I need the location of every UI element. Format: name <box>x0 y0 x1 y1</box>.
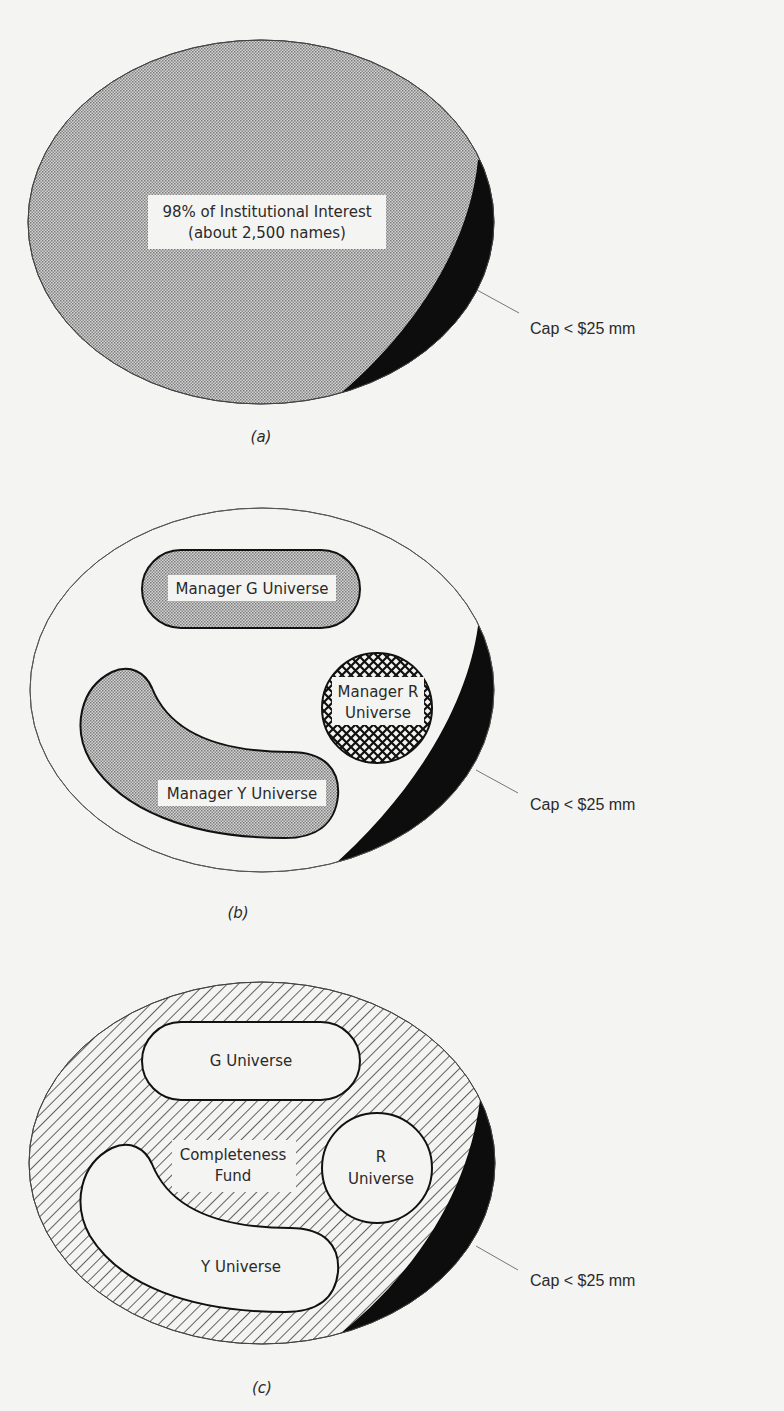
callout-leader <box>477 290 519 313</box>
panel-c: G Universe R Universe Completeness Fund … <box>29 982 635 1397</box>
universe-diagram: 98% of Institutional Interest (about 2,5… <box>0 0 784 1411</box>
callout-label: Cap < $25 mm <box>530 796 635 813</box>
completeness-fund-label-line1: Completeness <box>180 1146 287 1164</box>
caption-a: (a) <box>251 428 272 446</box>
g-universe-label: G Universe <box>210 1052 292 1070</box>
caption-b: (b) <box>227 904 248 922</box>
panel-a: 98% of Institutional Interest (about 2,5… <box>28 40 635 446</box>
callout-leader <box>476 770 518 793</box>
manager-r-label-line2: Universe <box>345 704 411 722</box>
callout-leader <box>476 1246 518 1270</box>
manager-y-label: Manager Y Universe <box>167 785 317 803</box>
callout-label: Cap < $25 mm <box>530 320 635 337</box>
y-universe-label: Y Universe <box>200 1258 281 1276</box>
main-label-line1: 98% of Institutional Interest <box>162 203 371 221</box>
manager-r-label-line1: Manager R <box>338 683 419 701</box>
r-universe-label-line2: Universe <box>348 1170 414 1188</box>
panel-b: Manager G Universe Manager R Universe Ma… <box>30 508 635 922</box>
callout-label: Cap < $25 mm <box>530 1272 635 1289</box>
manager-g-label: Manager G Universe <box>176 580 329 598</box>
r-universe-label-line1: R <box>376 1148 386 1166</box>
caption-c: (c) <box>252 1379 272 1397</box>
figure-page: 98% of Institutional Interest (about 2,5… <box>0 0 784 1411</box>
main-label-line2: (about 2,500 names) <box>188 224 346 242</box>
r-universe <box>322 1113 432 1223</box>
completeness-fund-label-line2: Fund <box>215 1167 251 1185</box>
